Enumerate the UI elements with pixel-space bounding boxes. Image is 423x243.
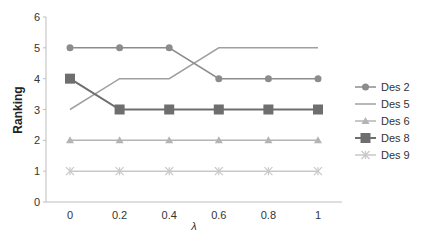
y-tick-label: 2 <box>34 134 40 146</box>
legend-item: Des 8 <box>355 132 410 144</box>
series-des-6 <box>66 136 322 143</box>
square-marker-icon <box>313 105 323 115</box>
series-line <box>70 48 318 79</box>
circle-marker-icon <box>166 44 173 51</box>
y-tick-label: 1 <box>34 165 40 177</box>
x-tick-label: 1 <box>315 209 321 221</box>
legend-item: Des 9 <box>355 149 410 161</box>
series-line <box>70 79 318 110</box>
series-des-2 <box>67 44 322 82</box>
legend: Des 2Des 5Des 6Des 8Des 9 <box>355 81 410 161</box>
legend-label: Des 8 <box>381 132 410 144</box>
legend-label: Des 5 <box>381 98 410 110</box>
series-des-9 <box>66 167 322 175</box>
y-tick-label: 3 <box>34 104 40 116</box>
legend-item: Des 2 <box>355 81 410 93</box>
x-tick-label: 0 <box>67 209 73 221</box>
square-marker-icon <box>65 74 75 84</box>
series-des-8 <box>65 74 323 115</box>
axes: 012345600.20.40.60.81 <box>34 11 342 221</box>
y-tick-label: 6 <box>34 11 40 23</box>
plot-series <box>65 44 323 175</box>
x-tick-label: 0.8 <box>261 209 276 221</box>
circle-marker-icon <box>215 75 222 82</box>
y-axis-label: Ranking <box>11 86 25 133</box>
circle-marker-icon <box>67 44 74 51</box>
ranking-line-chart: 012345600.20.40.60.81 Des 2Des 5Des 6Des… <box>0 0 423 243</box>
square-marker-icon <box>115 105 125 115</box>
circle-marker-icon <box>362 84 369 91</box>
legend-label: Des 2 <box>381 81 410 93</box>
y-tick-label: 5 <box>34 42 40 54</box>
legend-item: Des 5 <box>355 98 410 110</box>
square-marker-icon <box>361 133 371 143</box>
circle-marker-icon <box>315 75 322 82</box>
circle-marker-icon <box>265 75 272 82</box>
x-tick-label: 0.4 <box>162 209 177 221</box>
y-tick-label: 0 <box>34 196 40 208</box>
x-tick-label: 0.6 <box>211 209 226 221</box>
legend-item: Des 6 <box>355 115 410 127</box>
legend-label: Des 6 <box>381 115 410 127</box>
square-marker-icon <box>263 105 273 115</box>
square-marker-icon <box>164 105 174 115</box>
circle-marker-icon <box>116 44 123 51</box>
x-axis-label: λ <box>190 220 196 232</box>
y-tick-label: 4 <box>34 73 40 85</box>
x-tick-label: 0.2 <box>112 209 127 221</box>
square-marker-icon <box>214 105 224 115</box>
legend-label: Des 9 <box>381 149 410 161</box>
